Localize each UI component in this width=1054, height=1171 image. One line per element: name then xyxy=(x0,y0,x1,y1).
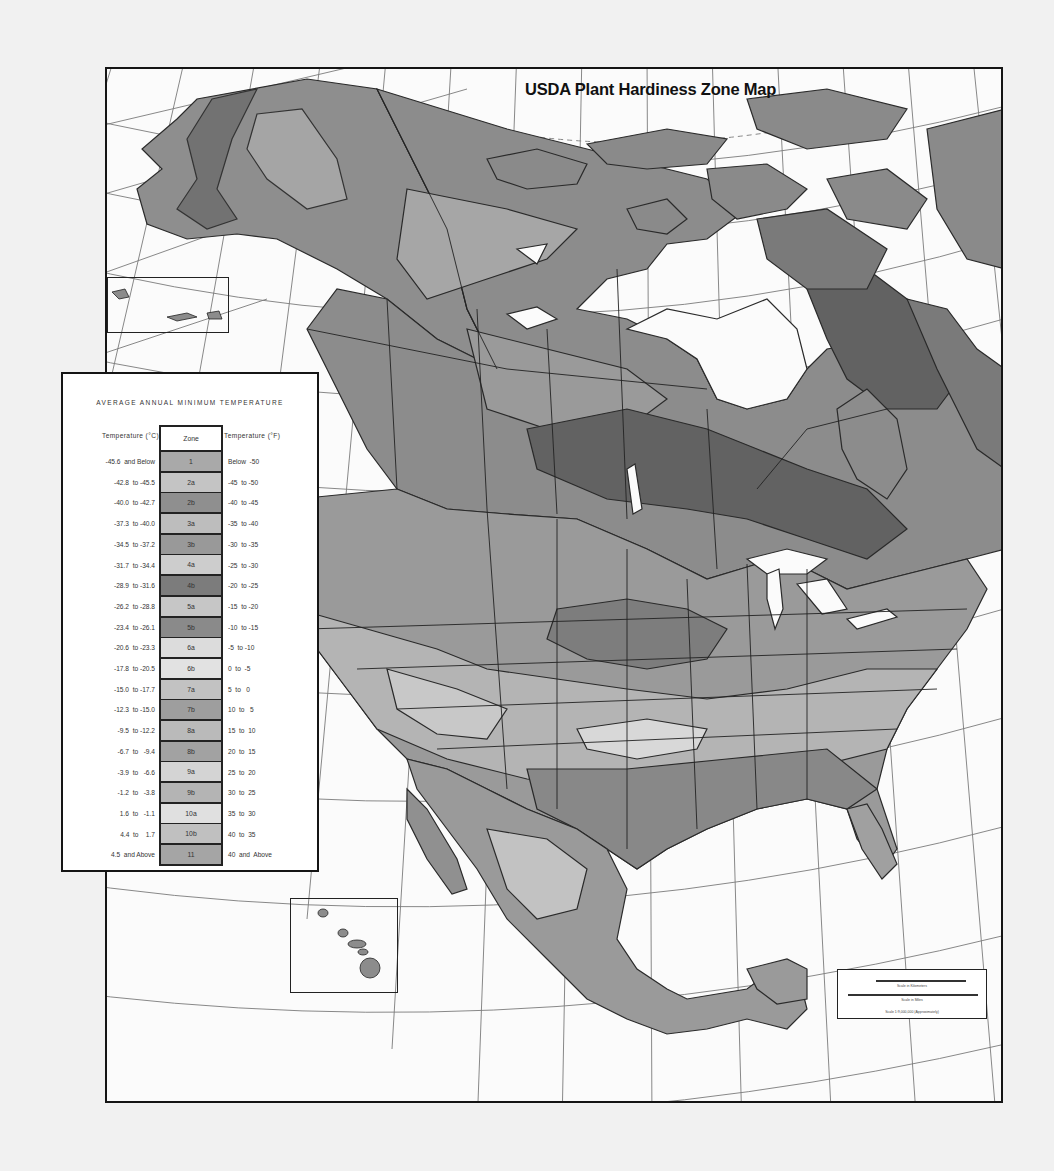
legend-row-fahrenheit: 20 to 15 xyxy=(228,748,256,755)
legend-row-fahrenheit: -30 to -35 xyxy=(228,541,258,548)
legend-row-fahrenheit: 35 to 30 xyxy=(228,810,256,817)
zone-swatch: 6a xyxy=(161,638,221,657)
legend-row-fahrenheit: Below -50 xyxy=(228,458,259,465)
map-title: USDA Plant Hardiness Zone Map xyxy=(525,80,776,99)
legend-row-fahrenheit: 10 to 5 xyxy=(228,706,254,713)
zone-swatch: 3b xyxy=(161,535,221,554)
zone-swatch: 5a xyxy=(161,597,221,616)
zone-swatch: 6b xyxy=(161,659,221,678)
legend-row-fahrenheit: 30 to 25 xyxy=(228,789,256,796)
legend-row-fahrenheit: 40 to 35 xyxy=(228,831,256,838)
legend-row-fahrenheit: -15 to -20 xyxy=(228,603,258,610)
legend-row-celsius: -31.7 to -34.4 xyxy=(63,562,155,569)
km-scale-bar xyxy=(876,980,966,982)
km-scale-label: Scale in Kilometers xyxy=(838,984,986,988)
legend-row-celsius: -3.9 to -6.6 xyxy=(63,769,155,776)
legend-row-fahrenheit: 5 to 0 xyxy=(228,686,250,693)
legend-row-celsius: 4.4 to 1.7 xyxy=(63,831,155,838)
zone-swatch: 9b xyxy=(161,783,221,802)
zone-swatch: 3a xyxy=(161,514,221,533)
legend-row-fahrenheit: -5 to -10 xyxy=(228,644,254,651)
legend-row-celsius: -28.9 to -31.6 xyxy=(63,582,155,589)
legend-row-fahrenheit: -40 to -45 xyxy=(228,499,258,506)
legend-row-celsius: -1.2 to -3.8 xyxy=(63,789,155,796)
legend-row-celsius: -42.8 to -45.5 xyxy=(63,479,155,486)
legend-row-celsius: -9.5 to -12.2 xyxy=(63,727,155,734)
legend-row-fahrenheit: -20 to -25 xyxy=(228,582,258,589)
legend-header-fahrenheit: Temperature (°F) xyxy=(224,432,280,439)
legend-row-celsius: 4.5 and Above xyxy=(63,851,155,858)
zone-swatch: 8a xyxy=(161,721,221,740)
zone-swatch: 2a xyxy=(161,473,221,492)
zone-swatch: 1 xyxy=(161,452,221,471)
mi-scale-bar xyxy=(848,994,978,996)
zone-swatch: 10b xyxy=(161,824,221,843)
legend-row-celsius: -15.0 to -17.7 xyxy=(63,686,155,693)
zone-swatch: 4a xyxy=(161,555,221,574)
legend-row-celsius: 1.6 to -1.1 xyxy=(63,810,155,817)
zone-swatch: 7b xyxy=(161,700,221,719)
legend-row-fahrenheit: -45 to -50 xyxy=(228,479,258,486)
legend-row-celsius: -20.6 to -23.3 xyxy=(63,644,155,651)
legend-row-celsius: -12.3 to -15.0 xyxy=(63,706,155,713)
zone-swatch: 4b xyxy=(161,576,221,595)
legend-row-celsius: -23.4 to -26.1 xyxy=(63,624,155,631)
legend-row-fahrenheit: 15 to 10 xyxy=(228,727,256,734)
aleutian-islands xyxy=(107,277,227,331)
zone-swatch: 2b xyxy=(161,493,221,512)
zone-column: Zone 12a2b3a3b4a4b5a5b6a6b7a7b8a8b9a9b10… xyxy=(159,425,223,866)
zone-swatch: 10a xyxy=(161,804,221,823)
legend-row-fahrenheit: -10 to -15 xyxy=(228,624,258,631)
legend-row-celsius: -45.6 and Below xyxy=(63,458,155,465)
legend-row-celsius: -37.3 to -40.0 xyxy=(63,520,155,527)
zone-swatch: 11 xyxy=(161,845,221,864)
legend-row-celsius: -34.5 to -37.2 xyxy=(63,541,155,548)
legend-row-celsius: -40.0 to -42.7 xyxy=(63,499,155,506)
scale-box: Scale in Kilometers Scale in Miles Scale… xyxy=(837,969,987,1019)
zone-swatch: 7a xyxy=(161,680,221,699)
zone-swatch: 9a xyxy=(161,762,221,781)
mi-scale-label: Scale in Miles xyxy=(838,998,986,1002)
legend-row-fahrenheit: 25 to 20 xyxy=(228,769,256,776)
legend-row-celsius: -17.8 to -20.5 xyxy=(63,665,155,672)
legend-row-celsius: -6.7 to -9.4 xyxy=(63,748,155,755)
zone-swatch: 5b xyxy=(161,618,221,637)
legend-row-celsius: -26.2 to -28.8 xyxy=(63,603,155,610)
zone-header: Zone xyxy=(161,427,221,450)
hawaii-islands xyxy=(290,898,396,991)
legend-title: AVERAGE ANNUAL MINIMUM TEMPERATURE xyxy=(63,399,317,406)
legend-row-fahrenheit: -35 to -40 xyxy=(228,520,258,527)
scale-ratio: Scale 1:9,000,000 (Approximately) xyxy=(838,1010,986,1014)
legend-row-fahrenheit: 0 to -5 xyxy=(228,665,250,672)
legend-row-fahrenheit: -25 to -30 xyxy=(228,562,258,569)
legend-row-fahrenheit: 40 and Above xyxy=(228,851,272,858)
legend: AVERAGE ANNUAL MINIMUM TEMPERATURE Tempe… xyxy=(61,372,319,872)
legend-header-celsius: Temperature (°C) xyxy=(63,432,159,439)
zone-swatch: 8b xyxy=(161,742,221,761)
